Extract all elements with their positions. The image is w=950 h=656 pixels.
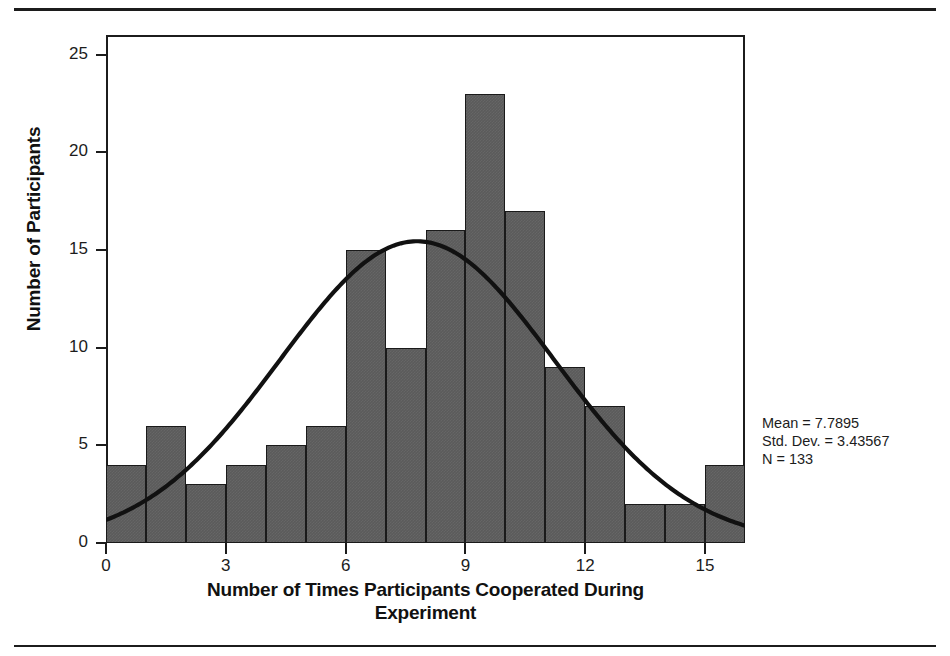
x-axis-title-line-1: Number of Times Participants Cooperated … — [207, 579, 644, 600]
histogram-bar — [346, 250, 386, 543]
y-tick-label: 0 — [40, 532, 88, 552]
histogram-bar — [465, 94, 505, 543]
histogram-bar — [266, 445, 306, 543]
y-axis-title: Number of Participants — [23, 99, 45, 359]
y-tick-mark — [96, 444, 106, 446]
stat-n: N = 133 — [762, 450, 890, 468]
y-tick-label: 20 — [40, 141, 88, 161]
histogram-bar — [386, 348, 426, 543]
y-tick-label: 15 — [40, 239, 88, 259]
histogram-bar — [186, 484, 226, 543]
histogram-bar — [226, 465, 266, 543]
x-tick-label: 12 — [560, 556, 610, 576]
histogram-bar — [585, 406, 625, 543]
x-tick-mark — [225, 543, 227, 554]
histogram-bar — [426, 230, 466, 543]
histogram-bar — [545, 367, 585, 543]
x-axis-title: Number of Times Participants Cooperated … — [106, 578, 745, 624]
x-tick-mark — [584, 543, 586, 554]
x-tick-label: 3 — [201, 556, 251, 576]
bottom-horizontal-rule — [14, 645, 936, 647]
stat-mean: Mean = 7.7895 — [762, 414, 890, 432]
x-axis-title-line-2: Experiment — [106, 601, 745, 624]
x-tick-mark — [464, 543, 466, 554]
histogram-bar — [665, 504, 705, 543]
x-tick-label: 6 — [321, 556, 371, 576]
stat-std-dev: Std. Dev. = 3.43567 — [762, 432, 890, 450]
y-tick-label: 25 — [40, 44, 88, 64]
histogram-bar — [705, 465, 745, 543]
y-tick-label: 10 — [40, 337, 88, 357]
histogram-bar — [625, 504, 665, 543]
histogram-bar — [505, 211, 545, 543]
y-tick-mark — [96, 249, 106, 251]
x-tick-label: 9 — [440, 556, 490, 576]
histogram-bar — [106, 465, 146, 543]
x-tick-mark — [345, 543, 347, 554]
y-tick-label: 5 — [40, 434, 88, 454]
y-tick-mark — [96, 54, 106, 56]
x-tick-mark — [105, 543, 107, 554]
histogram-bar — [306, 426, 346, 543]
y-tick-mark — [96, 151, 106, 153]
x-tick-mark — [704, 543, 706, 554]
histogram-bars — [106, 35, 745, 543]
histogram-figure: Number of Participants 0510152025 036912… — [0, 0, 950, 656]
statistics-annotation: Mean = 7.7895 Std. Dev. = 3.43567 N = 13… — [762, 414, 890, 468]
histogram-bar — [146, 426, 186, 543]
x-tick-label: 15 — [680, 556, 730, 576]
y-tick-mark — [96, 347, 106, 349]
x-tick-label: 0 — [81, 556, 131, 576]
